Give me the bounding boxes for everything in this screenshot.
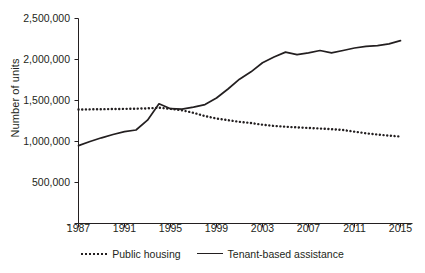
x-axis-tick-label: 1995 [149, 222, 193, 234]
x-axis-tick-label: 2003 [241, 222, 285, 234]
legend-item[interactable]: Tenant-based assistance [197, 248, 344, 260]
y-axis-tick-label: 500,000 [8, 176, 70, 188]
legend-label: Tenant-based assistance [228, 248, 344, 260]
y-axis-tick-label: 2,500,000 [8, 12, 70, 24]
dotted-line-icon [81, 250, 107, 258]
y-axis-tick-label: 2,000,000 [8, 53, 70, 65]
series-line-1 [79, 41, 401, 146]
legend-label: Public housing [112, 248, 180, 260]
x-axis-tick-label: 1991 [103, 222, 147, 234]
chart-container: Number of units -500,0001,000,0001,500,0… [0, 0, 425, 273]
x-axis-tick-label: 2011 [333, 222, 377, 234]
series-line-0 [79, 108, 401, 137]
data-series [79, 41, 401, 146]
legend-item[interactable]: Public housing [81, 248, 180, 260]
x-axis-tick-label: 1987 [57, 222, 101, 234]
y-axis-tick-label: 1,500,000 [8, 94, 70, 106]
x-axis-tick-label: 2007 [287, 222, 331, 234]
x-axis-tick-label: 1999 [195, 222, 239, 234]
chart-legend: Public housingTenant-based assistance [0, 248, 425, 260]
x-axis-tick-label: 2015 [379, 222, 423, 234]
y-axis-tick-label: 1,000,000 [8, 135, 70, 147]
solid-line-icon [197, 250, 223, 258]
